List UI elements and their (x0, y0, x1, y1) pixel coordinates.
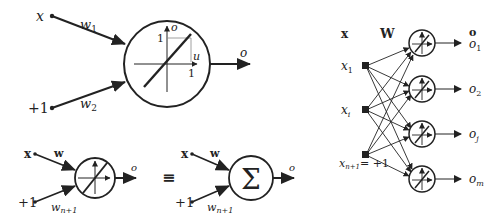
input-label-x: x (36, 8, 44, 24)
output-label: o (131, 162, 137, 173)
sum-neuron: x +1 w wn+1 Σ o (175, 147, 295, 215)
output-label-m: om (469, 172, 484, 188)
single-neuron: x +1 w1 w2 o u 1 1 o (28, 8, 250, 116)
bias-weight-arrow (35, 186, 75, 202)
input-label-bias: +1 (18, 195, 37, 210)
output-neuron-j (409, 121, 435, 147)
weight-label-2: w2 (80, 96, 97, 113)
bias-weight-label: wn+1 (207, 201, 233, 215)
input-label-1: x1 (341, 59, 353, 75)
input-label-x: x (24, 147, 32, 161)
output-label: o (240, 46, 247, 60)
output-label-j: oj (469, 127, 479, 143)
input-vector-header: x (341, 27, 349, 41)
output-neuron-1 (409, 30, 435, 56)
input-label-bias: +1 (175, 195, 194, 210)
neural-network-diagram: x +1 w1 w2 o u 1 1 o x +1 w wn+1 o (0, 0, 498, 216)
weight-label: w (209, 147, 220, 160)
output-neuron-m (409, 166, 435, 192)
input-label-bias: +1 (28, 100, 49, 116)
output-label: o (289, 162, 295, 173)
bias-weight-arrow (192, 186, 229, 202)
compact-neuron: x +1 w wn+1 o (18, 147, 137, 215)
tick-label-x: 1 (188, 67, 195, 80)
axis-label-u: u (193, 50, 200, 63)
input-label-bias: xn+1= +1 (339, 157, 389, 171)
input-label-i: xi (341, 103, 351, 119)
output-label-2: o2 (469, 82, 481, 98)
weight-label-1: w1 (80, 17, 97, 34)
equivalence-symbol: ≡ (162, 168, 175, 187)
sigma-symbol: Σ (241, 163, 261, 196)
bias-weight-label: wn+1 (51, 201, 77, 215)
output-label-1: o1 (469, 37, 481, 53)
weight-label: w (53, 147, 64, 160)
output-neuron-2 (409, 76, 435, 102)
input-node-i (362, 106, 369, 113)
single-layer-network: x W o x1 xi xn+1= +1 (339, 26, 484, 192)
input-label-x: x (181, 147, 189, 161)
weight-matrix-header: W (379, 26, 395, 41)
axis-label-o: o (171, 21, 178, 34)
output-arrows (435, 43, 461, 179)
input-node-1 (362, 62, 369, 69)
tick-label-y: 1 (157, 32, 164, 45)
